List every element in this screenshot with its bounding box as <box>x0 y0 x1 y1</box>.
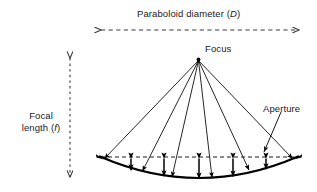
dish-depth-arrows <box>131 159 266 179</box>
focal-label-line2-suffix: ) <box>57 122 60 133</box>
diameter-label-suffix: ) <box>237 8 240 19</box>
paraboloid-diagram: Paraboloid diameter (D) Focallength (f) … <box>0 0 317 192</box>
focus-label: Focus <box>205 43 231 55</box>
focus-point <box>197 58 201 62</box>
diameter-symbol: D <box>230 8 237 19</box>
focal-length-label: Focallength (f) <box>13 110 69 133</box>
aperture-label: Aperture <box>263 103 300 115</box>
focal-label-line1: Focal <box>29 110 53 121</box>
paraboloid-diameter-label: Paraboloid diameter (D) <box>137 8 240 20</box>
diameter-label-text: Paraboloid diameter ( <box>137 8 230 19</box>
focal-label-line2-prefix: length ( <box>22 122 55 133</box>
diagram-canvas <box>0 0 317 192</box>
